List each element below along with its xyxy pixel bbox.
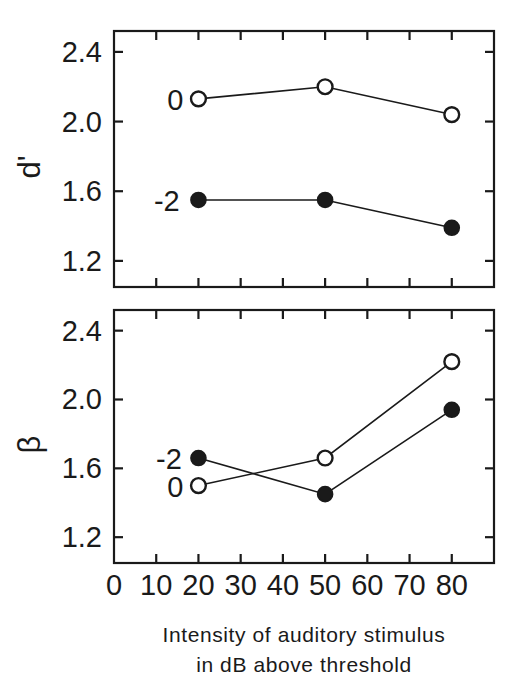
x-tick-label: 40 (267, 569, 299, 601)
panel-beta-y-axis-label: β (12, 436, 47, 454)
panel-beta-plot-frame (114, 310, 494, 563)
series-inline-label: -2 (154, 185, 180, 217)
y-tick-label: 1.2 (62, 521, 102, 553)
panel-dprime-y-axis-label: d' (12, 155, 47, 178)
panel-dprime-plot-frame (114, 31, 494, 287)
y-tick-label: 2.4 (62, 315, 102, 347)
data-point-open (191, 478, 206, 493)
x-tick-label: 0 (106, 569, 122, 601)
x-axis-caption: Intensity of auditory stimulusin dB abov… (163, 623, 446, 676)
x-tick-label: 30 (225, 569, 257, 601)
figure-container: 2.42.01.61.2d'0-22.42.01.61.2β-200102030… (0, 0, 529, 694)
data-point-filled (444, 402, 459, 417)
x-tick-label: 80 (436, 569, 468, 601)
data-point-open (318, 451, 333, 466)
x-axis-tick-labels: 01020304050607080 (106, 569, 468, 601)
x-tick-label: 70 (393, 569, 425, 601)
x-tick-label: 50 (309, 569, 341, 601)
panel-dprime: 2.42.01.61.2d'0-2 (12, 31, 494, 287)
data-point-open (444, 354, 459, 369)
series-inline-label: 0 (167, 471, 183, 503)
series-line-0 (198, 362, 451, 486)
y-tick-label: 2.0 (62, 106, 102, 138)
x-axis-caption-line1: Intensity of auditory stimulus (163, 623, 446, 646)
data-point-open (191, 92, 206, 107)
data-point-filled (318, 487, 333, 502)
y-tick-label: 1.2 (62, 245, 102, 277)
y-tick-label: 1.6 (62, 175, 102, 207)
x-tick-label: 10 (140, 569, 172, 601)
data-point-filled (191, 193, 206, 208)
data-point-filled (191, 451, 206, 466)
data-point-filled (444, 220, 459, 235)
two-panel-chart: 2.42.01.61.2d'0-22.42.01.61.2β-200102030… (0, 0, 529, 694)
data-point-open (444, 107, 459, 122)
y-tick-label: 2.4 (62, 36, 102, 68)
data-point-filled (318, 193, 333, 208)
y-tick-label: 2.0 (62, 383, 102, 415)
x-axis-caption-line2: in dB above threshold (196, 653, 412, 676)
panel-beta: 2.42.01.61.2β-20 (12, 310, 494, 563)
x-tick-label: 20 (182, 569, 214, 601)
x-tick-label: 60 (351, 569, 383, 601)
series-inline-label: 0 (167, 84, 183, 116)
y-tick-label: 1.6 (62, 452, 102, 484)
data-point-open (318, 79, 333, 94)
